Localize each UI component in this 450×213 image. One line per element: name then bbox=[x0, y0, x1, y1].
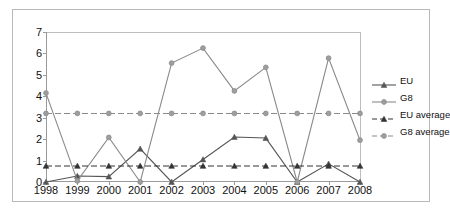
data-point bbox=[232, 89, 237, 94]
y-axis-tick-label: 2 bbox=[36, 134, 42, 145]
x-axis-tick-mark bbox=[266, 182, 267, 185]
data-point bbox=[326, 56, 331, 61]
data-point bbox=[138, 111, 143, 116]
series-eu bbox=[43, 134, 363, 184]
legend-item-eu[interactable]: EU bbox=[371, 72, 447, 89]
data-point bbox=[106, 111, 111, 116]
x-axis-tick-mark bbox=[203, 182, 204, 185]
x-axis-tick-label: 2000 bbox=[97, 185, 121, 196]
series-eu-average bbox=[43, 163, 363, 168]
data-point bbox=[357, 179, 363, 184]
legend-label: G8 average bbox=[400, 127, 450, 137]
y-axis-tick-label: 3 bbox=[36, 112, 42, 123]
data-point bbox=[295, 180, 300, 185]
data-point bbox=[263, 111, 268, 116]
data-point bbox=[138, 180, 143, 185]
x-axis-tick-label: 2001 bbox=[128, 185, 152, 196]
x-axis-tick-label: 1998 bbox=[34, 185, 58, 196]
data-point bbox=[106, 135, 111, 140]
data-point bbox=[326, 111, 331, 116]
x-axis-tick-mark bbox=[329, 182, 330, 185]
x-axis-tick-label: 1999 bbox=[65, 185, 89, 196]
data-point bbox=[357, 163, 363, 168]
x-axis-tick-mark bbox=[234, 182, 235, 185]
y-axis-tick-label: 1 bbox=[36, 155, 42, 166]
x-axis-tick-mark bbox=[109, 182, 110, 185]
data-point bbox=[358, 111, 363, 116]
data-point bbox=[44, 91, 49, 96]
data-point bbox=[44, 111, 49, 116]
data-point bbox=[201, 46, 206, 51]
legend-swatch-icon bbox=[371, 127, 397, 137]
legend-label: EU bbox=[400, 76, 413, 86]
y-axis-tick-label: 4 bbox=[36, 91, 42, 102]
data-point bbox=[137, 146, 143, 151]
x-axis-tick-label: 2007 bbox=[316, 185, 340, 196]
legend-item-g8[interactable]: G8 bbox=[371, 89, 447, 106]
x-axis-tick-label: 2005 bbox=[254, 185, 278, 196]
y-axis-tick-label: 5 bbox=[36, 69, 42, 80]
data-point bbox=[169, 111, 174, 116]
legend-label: G8 bbox=[400, 93, 413, 103]
data-point bbox=[201, 111, 206, 116]
legend-swatch-icon bbox=[371, 93, 397, 103]
data-point bbox=[169, 61, 174, 66]
data-point bbox=[75, 111, 80, 116]
data-point bbox=[75, 179, 80, 184]
data-point bbox=[232, 111, 237, 116]
legend-item-g8-average[interactable]: G8 average bbox=[371, 123, 447, 140]
chart-legend: EUG8EU averageG8 average bbox=[371, 72, 447, 140]
legend-item-eu-average[interactable]: EU average bbox=[371, 106, 447, 123]
legend-swatch-icon bbox=[371, 110, 397, 120]
x-axis-tick-label: 2003 bbox=[191, 185, 215, 196]
x-axis-tick-label: 2002 bbox=[159, 185, 183, 196]
y-axis-tick-label: 6 bbox=[36, 48, 42, 59]
data-point bbox=[358, 138, 363, 143]
data-point bbox=[263, 65, 268, 70]
chart-container: 01234567 1998199920002001200220032004200… bbox=[12, 9, 430, 202]
x-axis-tick-label: 2008 bbox=[348, 185, 372, 196]
plot-area: 01234567 1998199920002001200220032004200… bbox=[46, 32, 361, 182]
data-point bbox=[295, 111, 300, 116]
legend-swatch-icon bbox=[371, 76, 397, 86]
legend-label: EU average bbox=[400, 110, 450, 120]
x-axis-tick-label: 2004 bbox=[222, 185, 246, 196]
x-axis-tick-label: 2006 bbox=[285, 185, 309, 196]
y-axis-tick-label: 7 bbox=[36, 27, 42, 38]
series-layer bbox=[46, 32, 361, 182]
